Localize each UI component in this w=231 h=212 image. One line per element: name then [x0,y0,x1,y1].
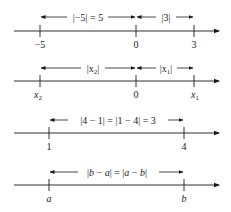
span-label: |3| [161,12,170,23]
tick-label-x1: x1 [190,89,199,102]
tick-label: 3 [192,39,197,50]
number-lines-diagram: −5 0 3 |−5| = 5 |3| x2 0 x1 |x2| |x1 [0,0,231,212]
number-line-4: a b |b − a| = |a − b| [14,167,219,205]
tick-label: a [47,193,52,204]
span-label: |−5| = 5 [73,12,103,23]
span-label: |x2| [87,63,100,76]
tick-label: 0 [134,89,139,100]
number-line-3: 1 4 |4 − 1| = |1 − 4| = 3 [14,115,219,153]
span-label: |b − a| = |a − b| [87,167,147,178]
tick-label-x2: x2 [33,89,42,102]
tick-label: 0 [134,39,139,50]
tick-label: 1 [47,141,52,152]
tick-label: b [182,193,187,204]
number-line-2: x2 0 x1 |x2| |x1| [14,63,219,103]
span-label: |4 − 1| = |1 − 4| = 3 [80,115,156,126]
tick-label: 4 [182,141,187,152]
span-label: |x1| [160,63,173,76]
tick-label: −5 [35,39,46,50]
number-line-1: −5 0 3 |−5| = 5 |3| [14,12,219,51]
